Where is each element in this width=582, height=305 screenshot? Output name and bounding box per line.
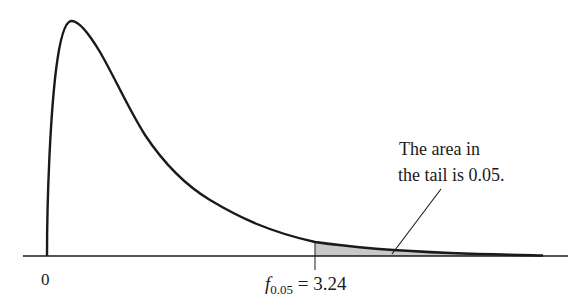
f-distribution-diagram: 0 f0.05 = 3.24 The area in the tail is 0…: [0, 0, 582, 305]
annotation-pointer-line: [392, 189, 441, 254]
annotation-line-1: The area in: [399, 139, 480, 159]
f-subscript: 0.05: [270, 282, 293, 297]
critical-value-label: f0.05 = 3.24: [265, 273, 347, 297]
annotation-line-2: the tail is 0.05.: [398, 165, 505, 185]
f-equals-value: = 3.24: [293, 273, 347, 294]
origin-label: 0: [41, 270, 50, 289]
